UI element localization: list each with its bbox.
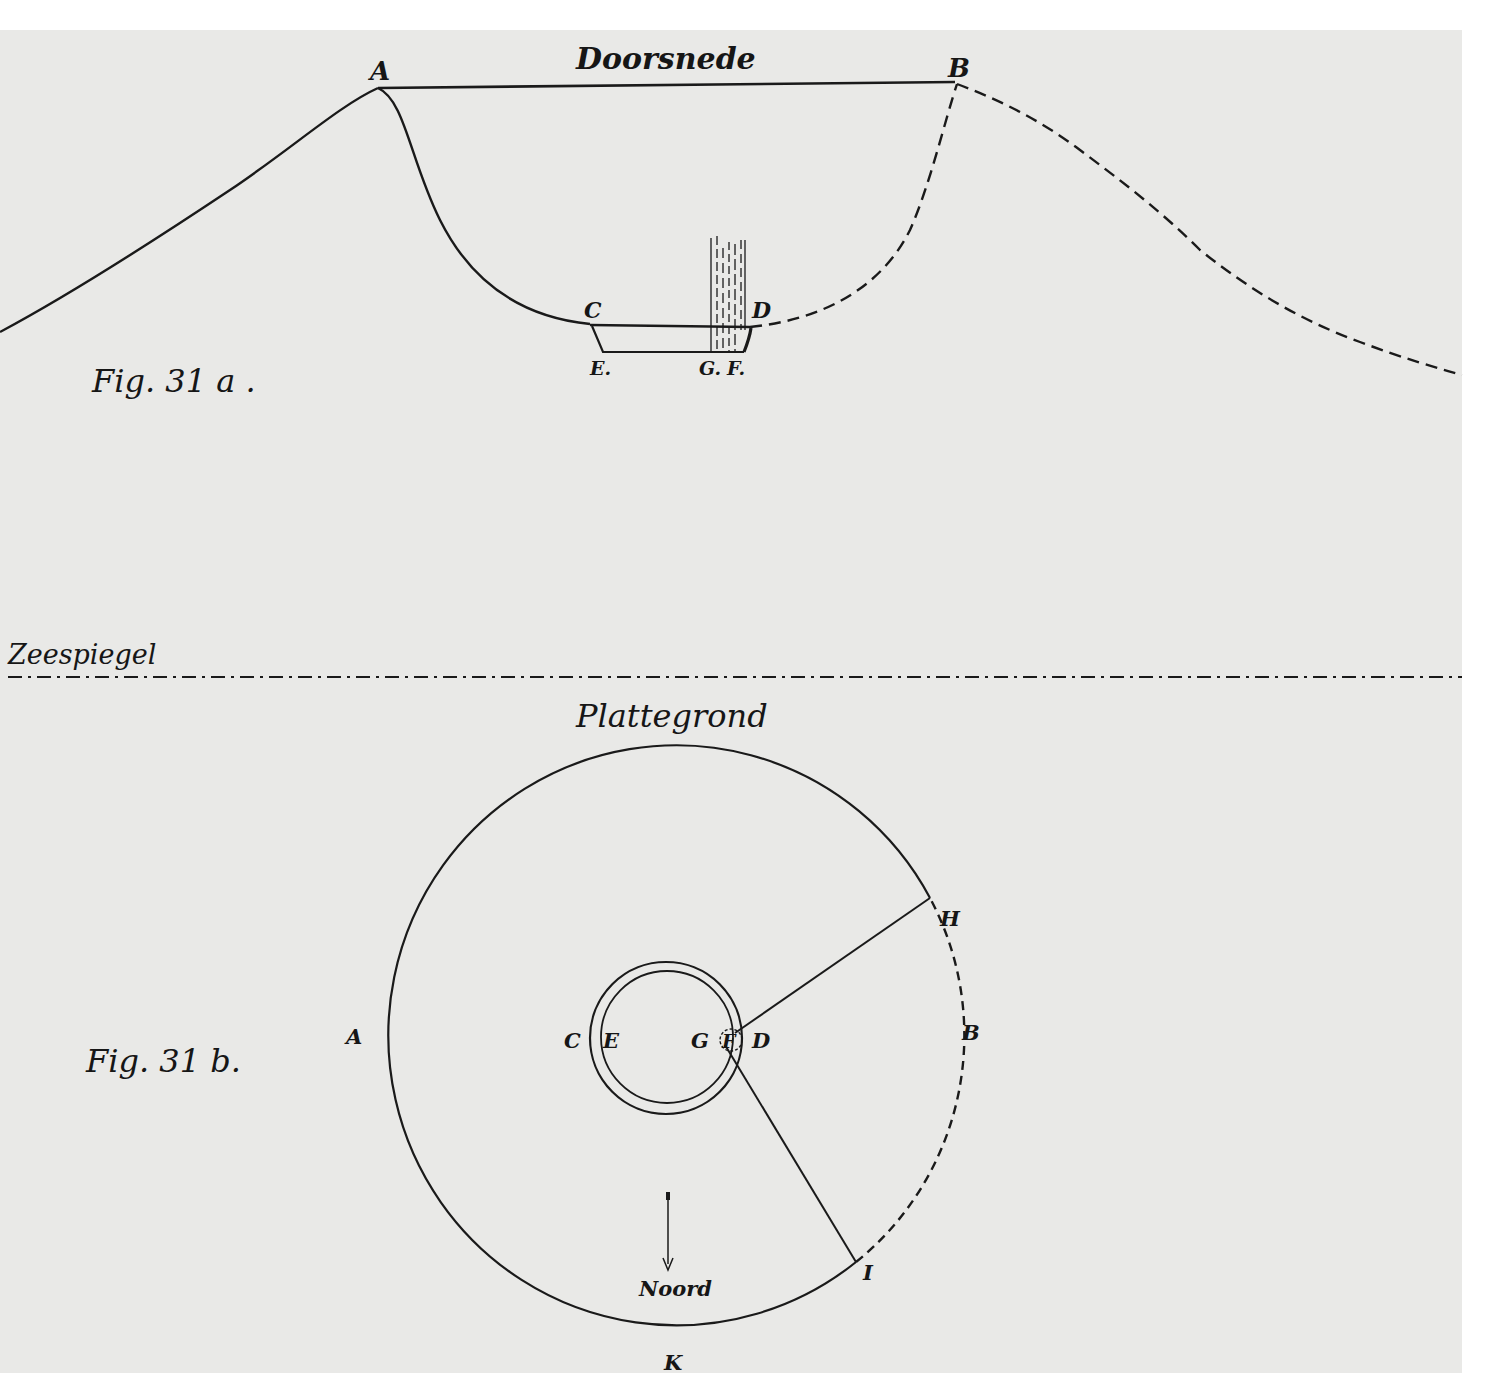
label-b-section: B [947,53,970,83]
crater-floor-cd [590,325,750,327]
well-inner-ring [601,971,733,1103]
well-side-df [744,328,751,352]
label-f-section: F. [726,357,745,379]
label-g-section: G. [699,357,721,379]
label-a-section: A [367,56,390,86]
well-trapezoid-cef [592,326,744,352]
label-zeespiegel: Zeespiegel [7,639,156,670]
inner-bowl-left [378,88,590,324]
figure-31b-plan: Plattegrond Noord A B C E G F D H I K Fi… [85,697,980,1375]
label-k-plan: K [663,1350,683,1375]
label-d-plan: D [751,1028,771,1053]
figure-31a-cross-section: Doorsnede A B C D E. G. F. [0,41,1462,400]
label-a-plan: A [344,1024,362,1049]
label-f-plan: F [721,1030,737,1052]
label-b-plan: B [961,1020,980,1045]
caption-fig-31b: Fig. 31 b. [85,1042,241,1080]
label-i-plan: I [862,1260,874,1285]
label-d-section: D [751,297,771,323]
title-doorsnede: Doorsnede [575,41,756,76]
title-plattegrond: Plattegrond [575,697,768,735]
label-c-section: C [584,297,602,323]
rim-line-ab [378,82,955,88]
hatched-column-icon [711,236,745,352]
radius-line-to-h [735,898,930,1033]
label-g-plan: G [691,1028,709,1053]
crater-rim-solid-arc [388,745,930,1325]
diagram-canvas: Doorsnede A B C D E. G. F. [0,0,1508,1397]
inner-bowl-right-dashed [750,84,957,327]
right-outer-slope-dashed [957,84,1462,375]
label-c-plan: C [564,1028,581,1053]
radius-line-to-i [725,1045,856,1262]
label-h-plan: H [939,906,961,931]
caption-fig-31a: Fig. 31 a . [91,362,256,400]
label-e-section: E. [589,357,611,379]
crater-rim-dashed-arc [856,898,964,1262]
north-arrow-icon [663,1192,673,1270]
label-e-plan: E [602,1028,620,1053]
sea-level: Zeespiegel [7,639,1462,677]
label-noord: Noord [638,1276,712,1301]
left-outer-slope [0,88,378,332]
